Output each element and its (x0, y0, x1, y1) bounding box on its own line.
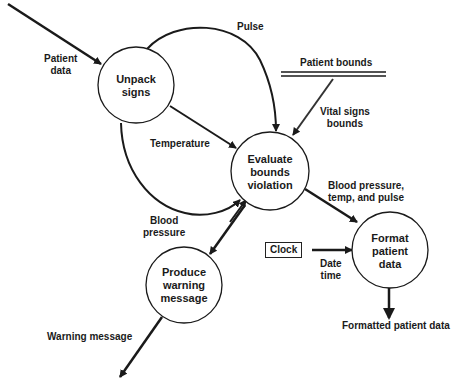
flow-label-vital-signs-bounds: Vital signs bounds (320, 106, 370, 130)
flow-produce-to-evaluate-arrow (230, 200, 246, 222)
flow-label-blood-pressure: Blood pressure (143, 215, 185, 239)
process-label-format: Format patient data (371, 232, 408, 271)
process-label-evaluate: Evaluate bounds violation (247, 153, 292, 192)
flow-label-temperature: Temperature (150, 138, 210, 150)
flow-label-bp-temp-pulse: Blood pressure, temp, and pulse (328, 180, 404, 204)
flow-label-date-time: Date time (320, 258, 342, 282)
flow-blood-pressure-arrow (121, 123, 240, 215)
process-label-unpack: Unpack signs (116, 73, 156, 99)
flow-label-formatted-patient-data: Formatted patient data (342, 320, 450, 332)
flow-label-patient-data: Patient data (44, 53, 77, 77)
external-entity-clock: Clock (265, 242, 302, 258)
flow-label-warning-message: Warning message (47, 331, 132, 343)
data-store-label: Patient bounds (300, 57, 372, 69)
flow-warning-message-arrow (120, 317, 162, 377)
flow-label-pulse: Pulse (237, 21, 264, 33)
process-label-produce: Produce warning message (160, 266, 207, 305)
